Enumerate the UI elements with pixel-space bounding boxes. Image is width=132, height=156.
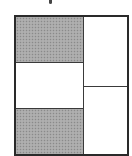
right-bottom-cell	[84, 87, 127, 154]
left-bottom-cell-shaded	[16, 109, 83, 154]
left-column	[16, 17, 84, 154]
right-column	[84, 17, 127, 154]
cropped-glyph-fragment	[49, 0, 52, 4]
partitioned-rectangle	[14, 15, 129, 156]
right-top-cell	[84, 17, 127, 87]
left-middle-cell	[16, 63, 83, 109]
left-top-cell-shaded	[16, 17, 83, 63]
